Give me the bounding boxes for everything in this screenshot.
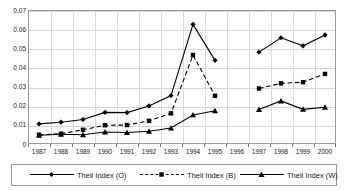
vertical-gridline — [271, 11, 272, 143]
gridline — [29, 88, 335, 89]
theil-index-line-chart: 00.010.020.030.040.050.060.07 1987198819… — [0, 0, 348, 191]
vertical-gridline — [205, 11, 206, 143]
legend-item-2[interactable]: Theil Index (B) — [140, 165, 236, 185]
x-axis-tick-label: 1990 — [98, 147, 112, 156]
vertical-gridline — [183, 11, 184, 143]
legend-label: Theil Index (B) — [187, 171, 236, 180]
x-axis-tick-label: 1994 — [186, 147, 200, 156]
y-axis-tick-label: 0.03 — [2, 83, 26, 90]
square-marker-icon — [159, 172, 163, 176]
plot-area — [28, 10, 336, 144]
x-axis-tick-label: 1992 — [142, 147, 156, 156]
vertical-gridline — [249, 11, 250, 143]
legend-key — [30, 170, 74, 180]
triangle-marker-icon — [257, 170, 266, 179]
y-axis-tick-label: 0.05 — [2, 45, 26, 52]
legend-key — [140, 170, 184, 180]
gridline — [29, 30, 335, 31]
vertical-gridline — [315, 11, 316, 143]
vertical-gridline — [139, 11, 140, 143]
vertical-gridline — [73, 11, 74, 143]
y-axis: 00.010.020.030.040.050.060.07 — [0, 0, 26, 191]
x-axis-tick-label: 1998 — [274, 147, 288, 156]
x-axis-tick-label: 1993 — [164, 147, 178, 156]
x-axis-tick-label: 1996 — [230, 147, 244, 156]
x-axis: 1987198819891990199119921993199419951996… — [28, 147, 336, 159]
y-axis-tick-label: 0.07 — [2, 7, 26, 14]
gridline — [29, 11, 335, 12]
y-axis-tick-label: 0.02 — [2, 102, 26, 109]
y-axis-tick-label: 0 — [2, 141, 26, 148]
legend-label: Theil Index (W) — [287, 171, 338, 180]
chart-legend: Theil Index (O)Theil Index (B)Theil Inde… — [11, 164, 337, 186]
diamond-marker-icon — [47, 170, 56, 179]
gridline — [29, 107, 335, 108]
x-axis-tick-label: 1997 — [252, 147, 266, 156]
y-axis-tick-label: 0.06 — [2, 26, 26, 33]
y-axis-tick-label: 0.01 — [2, 121, 26, 128]
vertical-gridline — [161, 11, 162, 143]
x-axis-tick-label: 1999 — [296, 147, 310, 156]
y-axis-tick-label: 0.04 — [2, 64, 26, 71]
legend-item-1[interactable]: Theil Index (O) — [30, 165, 127, 185]
x-axis-tick-label: 1987 — [32, 147, 46, 156]
gridline — [29, 68, 335, 69]
gridline — [29, 49, 335, 50]
square-marker-icon — [157, 170, 166, 179]
x-axis-tick-label: 1995 — [208, 147, 222, 156]
legend-key — [240, 170, 284, 180]
x-axis-tick-label: 1988 — [54, 147, 68, 156]
diamond-marker-icon — [49, 172, 54, 177]
x-axis-tick-label: 1991 — [120, 147, 134, 156]
vertical-gridline — [293, 11, 294, 143]
legend-item-3[interactable]: Theil Index (W) — [240, 165, 338, 185]
x-axis-tick-label: 1989 — [76, 147, 90, 156]
gridline — [29, 126, 335, 127]
legend-label: Theil Index (O) — [77, 171, 127, 180]
triangle-marker-icon — [259, 172, 265, 177]
x-axis-tick-label: 2000 — [318, 147, 332, 156]
vertical-gridline — [95, 11, 96, 143]
vertical-gridline — [117, 11, 118, 143]
vertical-gridline — [51, 11, 52, 143]
vertical-gridline — [227, 11, 228, 143]
